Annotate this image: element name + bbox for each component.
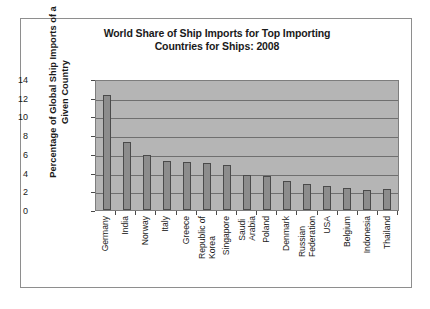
bar-slot	[97, 81, 117, 210]
x-category-label: India	[121, 216, 131, 235]
x-label-slot: SaudiArabia	[237, 216, 257, 286]
x-category-label-line: Korea	[207, 216, 217, 259]
bar-slot	[277, 81, 297, 210]
x-tick-slot	[297, 211, 317, 215]
bar-slot	[317, 81, 337, 210]
x-category-label: Thailand	[383, 216, 393, 249]
x-category-label-line: Arabia	[247, 216, 257, 241]
x-tick-slot	[177, 211, 197, 215]
bar	[223, 165, 231, 210]
x-tick-slot	[136, 211, 156, 215]
x-label-slot: Singapore	[217, 216, 237, 286]
bar-slot	[157, 81, 177, 210]
chart-title-line-2: Countries for Ships: 2008	[47, 40, 387, 53]
y-axis-title-line-1: Percentage of Global Ship Imports of a	[47, 0, 59, 187]
bar	[243, 175, 251, 210]
x-label-slot: Indonesia	[358, 216, 378, 286]
x-category-label: USA	[323, 216, 333, 234]
bar	[203, 163, 211, 210]
x-category-label-line: Belgium	[342, 216, 352, 247]
bar	[263, 176, 271, 210]
x-label-slot: Italy	[156, 216, 176, 286]
x-category-label-line: Germany	[100, 216, 110, 251]
chart-figure: World Share of Ship Imports for Top Impo…	[20, 18, 412, 288]
x-category-label: Denmark	[283, 216, 293, 251]
x-tick-mark	[397, 211, 398, 215]
y-tick-label: 2	[8, 187, 28, 197]
y-tick-label: 4	[8, 169, 28, 179]
bar-slot	[197, 81, 217, 210]
x-tick-slot	[358, 211, 378, 215]
x-tick-slot	[96, 211, 116, 215]
x-category-label-line: Greece	[181, 216, 191, 244]
bar	[363, 190, 371, 210]
y-tick-label: 12	[8, 94, 28, 104]
bar-slot	[117, 81, 137, 210]
x-tick-slot	[277, 211, 297, 215]
x-tick-slot	[217, 211, 237, 215]
x-category-label: SaudiArabia	[238, 216, 257, 241]
bar-slot	[137, 81, 157, 210]
bar	[103, 95, 111, 210]
x-category-label: Italy	[162, 216, 172, 232]
bar-slot	[337, 81, 357, 210]
x-category-label-line: USA	[322, 216, 332, 234]
y-tick-label: 10	[8, 112, 28, 122]
x-tick-slot	[237, 211, 257, 215]
bar	[143, 155, 151, 210]
y-tick-label: 14	[8, 75, 28, 85]
x-category-label: Belgium	[343, 216, 353, 247]
chart-title: World Share of Ship Imports for Top Impo…	[47, 27, 387, 53]
x-tick-slot	[257, 211, 277, 215]
x-axis-category-labels: GermanyIndiaNorwayItalyGreeceRepublic of…	[95, 216, 399, 286]
x-tick-slot	[378, 211, 398, 215]
plot-area	[95, 80, 399, 211]
x-category-label-line: Thailand	[382, 216, 392, 249]
y-tick-label: 8	[8, 131, 28, 141]
bar-slot	[297, 81, 317, 210]
x-axis-tick-marks	[95, 211, 399, 215]
x-category-label-line: India	[120, 216, 130, 235]
x-category-label-line: Russian	[297, 226, 307, 257]
bar	[163, 161, 171, 210]
x-category-label-line: Denmark	[282, 216, 292, 251]
x-tick-slot	[338, 211, 358, 215]
bar	[323, 186, 331, 210]
x-tick-slot	[156, 211, 176, 215]
bar	[303, 184, 311, 210]
x-category-label-line: Indonesia	[362, 216, 372, 253]
x-category-label-line: Saudi	[237, 219, 247, 241]
y-axis-title: Percentage of Global Ship Imports of a G…	[47, 0, 73, 187]
x-category-label: Singapore	[222, 216, 232, 255]
x-label-slot: Poland	[257, 216, 277, 286]
bar-slot	[177, 81, 197, 210]
x-category-label-line: Poland	[261, 216, 271, 243]
bar-series	[96, 81, 398, 210]
x-tick-slot	[318, 211, 338, 215]
bar	[283, 181, 291, 210]
x-label-slot: Germany	[96, 216, 116, 286]
bar-slot	[237, 81, 257, 210]
x-category-label-line: Republic of	[196, 216, 206, 259]
bar-slot	[257, 81, 277, 210]
y-tick-label: 0	[8, 206, 28, 216]
x-category-label: Norway	[142, 216, 152, 245]
x-label-slot: Thailand	[378, 216, 398, 286]
chart-title-line-1: World Share of Ship Imports for Top Impo…	[47, 27, 387, 40]
y-axis-title-line-2: Given Country	[59, 0, 71, 187]
bar-slot	[217, 81, 237, 210]
x-label-slot: Greece	[177, 216, 197, 286]
x-category-label: RussianFederation	[298, 216, 317, 257]
x-category-label: Greece	[182, 216, 192, 244]
x-category-label-line: Singapore	[221, 216, 231, 255]
x-label-slot: Denmark	[277, 216, 297, 286]
bar	[343, 188, 351, 210]
x-label-slot: Norway	[136, 216, 156, 286]
x-category-label: Germany	[101, 216, 111, 251]
bar	[123, 142, 131, 210]
bar-slot	[357, 81, 377, 210]
x-category-label: Republic ofKorea	[197, 216, 216, 259]
x-label-slot: RussianFederation	[297, 216, 317, 286]
bar-slot	[377, 81, 397, 210]
x-category-label: Indonesia	[363, 216, 373, 253]
